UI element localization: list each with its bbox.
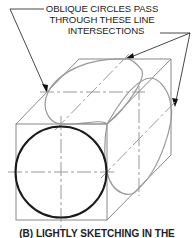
right-face-oblique-circle bbox=[105, 78, 172, 194]
annotation-line-2: THROUGH THESE LINE bbox=[49, 14, 154, 25]
top-face-oblique-circle bbox=[45, 59, 142, 125]
oblique-cube-diagram: OBLIQUE CIRCLES PASS THROUGH THESE LINE … bbox=[0, 0, 194, 238]
annotation-line-3: INTERSECTIONS bbox=[68, 25, 145, 36]
diagram-canvas: OBLIQUE CIRCLES PASS THROUGH THESE LINE … bbox=[0, 0, 194, 238]
annotation-line-1: OBLIQUE CIRCLES PASS bbox=[46, 3, 158, 14]
leader-right bbox=[176, 33, 190, 101]
leader-top bbox=[131, 33, 190, 57]
figure-caption: (B) LIGHTLY SKETCHING IN THE bbox=[19, 228, 175, 238]
leader-left bbox=[10, 9, 45, 88]
